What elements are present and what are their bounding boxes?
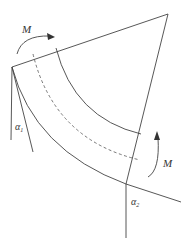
- left-vertical-line: [11, 67, 12, 140]
- angle-label-alpha2: α2: [131, 196, 139, 208]
- top-edge-line: [12, 14, 168, 67]
- neutral-axis-arc: [33, 54, 140, 160]
- inner-arc: [56, 48, 141, 134]
- right-edge-line: [126, 14, 168, 184]
- arrow-head-right-icon: [154, 131, 160, 140]
- outer-arc: [12, 67, 126, 184]
- alpha1-subscript: 1: [20, 127, 23, 133]
- moment-arrow-right: [148, 138, 158, 177]
- moment-arrow-top: [17, 36, 50, 54]
- moment-label-right: M: [162, 157, 173, 169]
- alpha2-subscript: 2: [136, 202, 139, 208]
- moment-label-top: M: [21, 23, 32, 35]
- angle-label-alpha1: α1: [15, 121, 23, 133]
- arrow-head-top-icon: [47, 33, 55, 40]
- curved-beam-diagram: M M α1 α2: [0, 0, 192, 246]
